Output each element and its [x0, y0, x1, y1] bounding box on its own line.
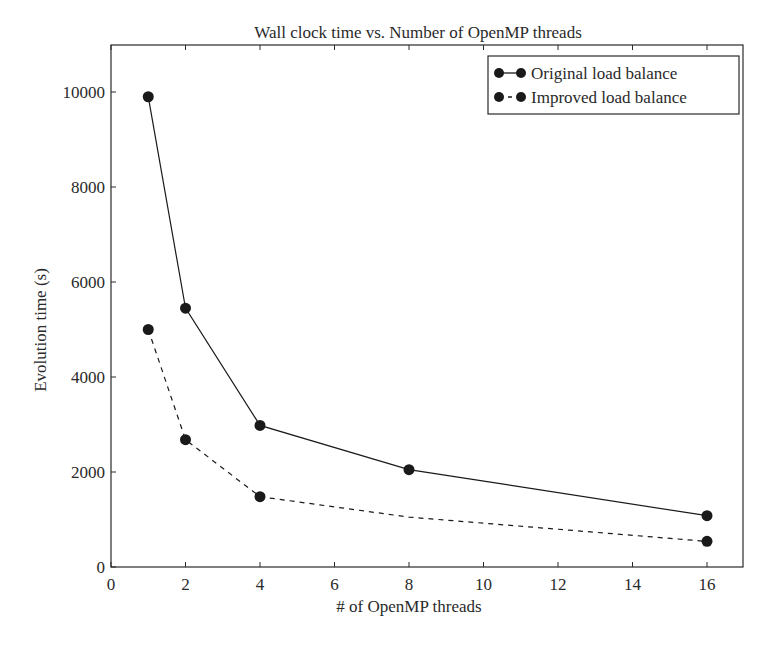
y-tick-label: 0	[97, 558, 106, 577]
data-point-marker	[255, 491, 266, 502]
line-chart: Wall clock time vs. Number of OpenMP thr…	[0, 0, 770, 651]
y-tick-label: 10000	[63, 83, 106, 102]
series-line	[148, 330, 707, 542]
x-tick-label: 8	[405, 575, 414, 594]
circle-marker-icon	[516, 68, 526, 78]
x-tick-label: 2	[181, 575, 190, 594]
y-tick-label: 4000	[71, 368, 105, 387]
x-tick-label: 10	[475, 575, 492, 594]
series-original	[143, 91, 713, 521]
y-axis-ticks: 0200040006000800010000	[63, 83, 117, 577]
circle-marker-icon	[494, 68, 504, 78]
x-tick-label: 12	[550, 575, 567, 594]
circle-marker-icon	[494, 92, 504, 102]
circle-marker-icon	[516, 92, 526, 102]
x-tick-label: 4	[256, 575, 265, 594]
x-tick-label: 6	[330, 575, 339, 594]
x-tick-label: 14	[624, 575, 642, 594]
plot-area-frame	[111, 45, 743, 567]
data-point-marker	[255, 420, 266, 431]
y-tick-label: 6000	[71, 273, 105, 292]
data-point-marker	[180, 303, 191, 314]
series-improved	[143, 324, 713, 547]
y-tick-label: 2000	[71, 463, 105, 482]
x-tick-label: 16	[699, 575, 716, 594]
data-point-marker	[180, 434, 191, 445]
data-point-marker	[143, 324, 154, 335]
x-axis-ticks: 0246810121416	[107, 45, 716, 594]
y-tick-label: 8000	[71, 178, 105, 197]
chart-title: Wall clock time vs. Number of OpenMP thr…	[254, 23, 582, 42]
y-axis-label: Evolution time (s)	[31, 268, 50, 392]
x-tick-label: 0	[107, 575, 116, 594]
legend-label-original: Original load balance	[531, 64, 677, 83]
series-line	[148, 97, 707, 516]
data-point-marker	[404, 464, 415, 475]
series-layer	[143, 91, 713, 547]
legend: Original load balance Improved load bala…	[488, 56, 739, 114]
legend-label-improved: Improved load balance	[531, 88, 687, 107]
data-point-marker	[143, 91, 154, 102]
data-point-marker	[702, 510, 713, 521]
data-point-marker	[702, 536, 713, 547]
x-axis-label: # of OpenMP threads	[336, 597, 481, 616]
